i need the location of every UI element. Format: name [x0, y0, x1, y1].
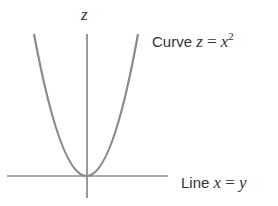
line-label-lhs: x: [214, 173, 222, 192]
line-label-rhs: y: [239, 173, 247, 192]
line-label: Line x = y: [181, 174, 247, 191]
z-axis-label: z: [81, 6, 88, 23]
curve-label: Curve z = x2: [152, 33, 234, 50]
curve-label-prefix: Curve: [152, 33, 192, 50]
curve-label-op: =: [207, 32, 217, 51]
curve-label-lhs: z: [196, 32, 203, 51]
z-axis-symbol: z: [81, 5, 88, 24]
parabola-curve: [34, 34, 138, 176]
curve-label-exponent: 2: [228, 30, 234, 42]
line-label-prefix: Line: [181, 174, 209, 191]
line-label-op: =: [225, 173, 235, 192]
